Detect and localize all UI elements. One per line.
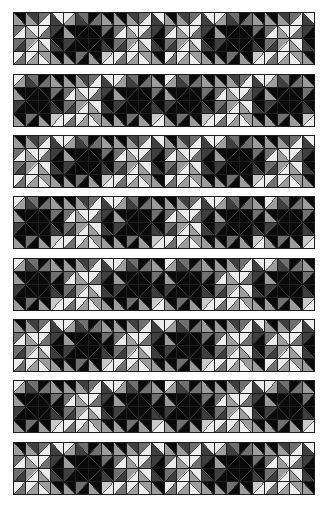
quilt-strip-2 [13,74,315,127]
quilt-strip-3 [13,135,315,188]
quilt-strip-6 [13,319,315,372]
quilt-strip-5 [13,258,315,311]
quilt-strip-7 [13,380,315,433]
quilt-strip-4 [13,196,315,249]
quilt-strip-8 [13,442,315,495]
quilt-strip-1 [13,12,315,65]
